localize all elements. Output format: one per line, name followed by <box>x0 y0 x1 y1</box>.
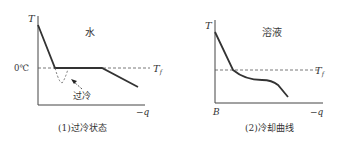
panel-supercooling: T 水 0℃ Tf 过冷 −q (1)过冷状态 <box>14 13 164 133</box>
y-axis-label: T <box>28 13 36 24</box>
zero-celsius-label: 0℃ <box>14 63 29 73</box>
panel-caption: (1)过冷状态 <box>58 122 107 133</box>
cooling-curve <box>215 32 288 97</box>
panel-title: 水 <box>85 27 95 38</box>
x-axis-label: −q <box>136 107 150 117</box>
origin-label: B <box>212 107 220 117</box>
supercooling-arrow <box>74 82 82 89</box>
supercooling-annotation: 过冷 <box>73 90 91 101</box>
panel-cooling-curve: T 溶液 Tf B −q (2)冷却曲线 <box>205 20 326 133</box>
cooling-curves-diagram: T 水 0℃ Tf 过冷 −q (1)过冷状态 T 溶液 Tf B −q (2)… <box>0 0 345 143</box>
panel-caption: (2)冷却曲线 <box>245 122 294 133</box>
supercooling-dip <box>55 68 68 83</box>
freeze-temp-label: Tf <box>315 65 326 78</box>
y-axis-label: T <box>205 20 213 31</box>
freeze-temp-label: Tf <box>153 63 164 76</box>
panel-title: 溶液 <box>262 26 282 38</box>
x-axis-label: −q <box>310 107 324 117</box>
